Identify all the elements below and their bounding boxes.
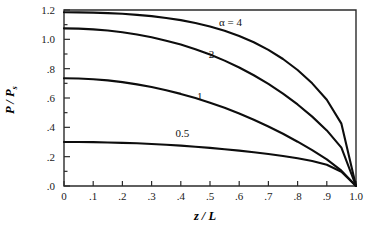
x-tick-label: .3 <box>147 190 156 202</box>
plot-frame <box>64 10 356 186</box>
curve-label-alpha-0p5: 0.5 <box>175 127 189 139</box>
x-tick-label: 1.0 <box>349 190 363 202</box>
x-axis-title: z / L <box>193 209 217 223</box>
y-axis-ticks <box>64 10 70 186</box>
curve-alpha-1 <box>64 78 356 186</box>
x-tick-label: 0 <box>61 190 67 202</box>
x-tick-label: .1 <box>89 190 97 202</box>
data-curves <box>64 12 356 186</box>
y-axis-title-subscript: s <box>9 85 19 90</box>
pressure-profile-chart: 1.21.0.8.6.4.2.0 0.1.2.3.4.5.6.7.8.91.0 … <box>0 0 371 230</box>
plot-border <box>64 10 356 186</box>
curve-label-alpha-2: 2 <box>209 48 215 60</box>
x-tick-label: .9 <box>323 190 332 202</box>
x-tick-label: .7 <box>264 190 273 202</box>
x-tick-label: .6 <box>235 190 244 202</box>
chart-figure: 1.21.0.8.6.4.2.0 0.1.2.3.4.5.6.7.8.91.0 … <box>0 0 371 230</box>
y-axis-title: P / Ps <box>3 85 19 114</box>
x-axis-ticks <box>64 181 356 186</box>
x-tick-label: .2 <box>118 190 126 202</box>
y-tick-label: .4 <box>47 121 56 133</box>
y-tick-label: 1.2 <box>41 4 55 16</box>
x-axis-tick-labels: 0.1.2.3.4.5.6.7.8.91.0 <box>61 190 363 202</box>
y-axis-title-main: P / P <box>3 89 17 114</box>
y-axis-tick-labels: 1.21.0.8.6.4.2.0 <box>41 4 55 192</box>
svg-text:P / Ps: P / Ps <box>3 85 19 114</box>
curve-label-alpha-1: 1 <box>197 90 203 102</box>
x-tick-label: .4 <box>177 190 186 202</box>
x-tick-label: .5 <box>206 190 215 202</box>
y-tick-label: .6 <box>47 92 56 104</box>
y-tick-label: .2 <box>47 151 55 163</box>
curve-alpha-4 <box>64 12 356 186</box>
y-tick-label: 1.0 <box>41 33 55 45</box>
curve-alpha-0p5 <box>64 142 356 186</box>
x-tick-label: .8 <box>293 190 302 202</box>
curve-label-alpha-4: α = 4 <box>219 16 242 28</box>
y-tick-label: .8 <box>47 63 56 75</box>
y-tick-label: .0 <box>47 180 56 192</box>
